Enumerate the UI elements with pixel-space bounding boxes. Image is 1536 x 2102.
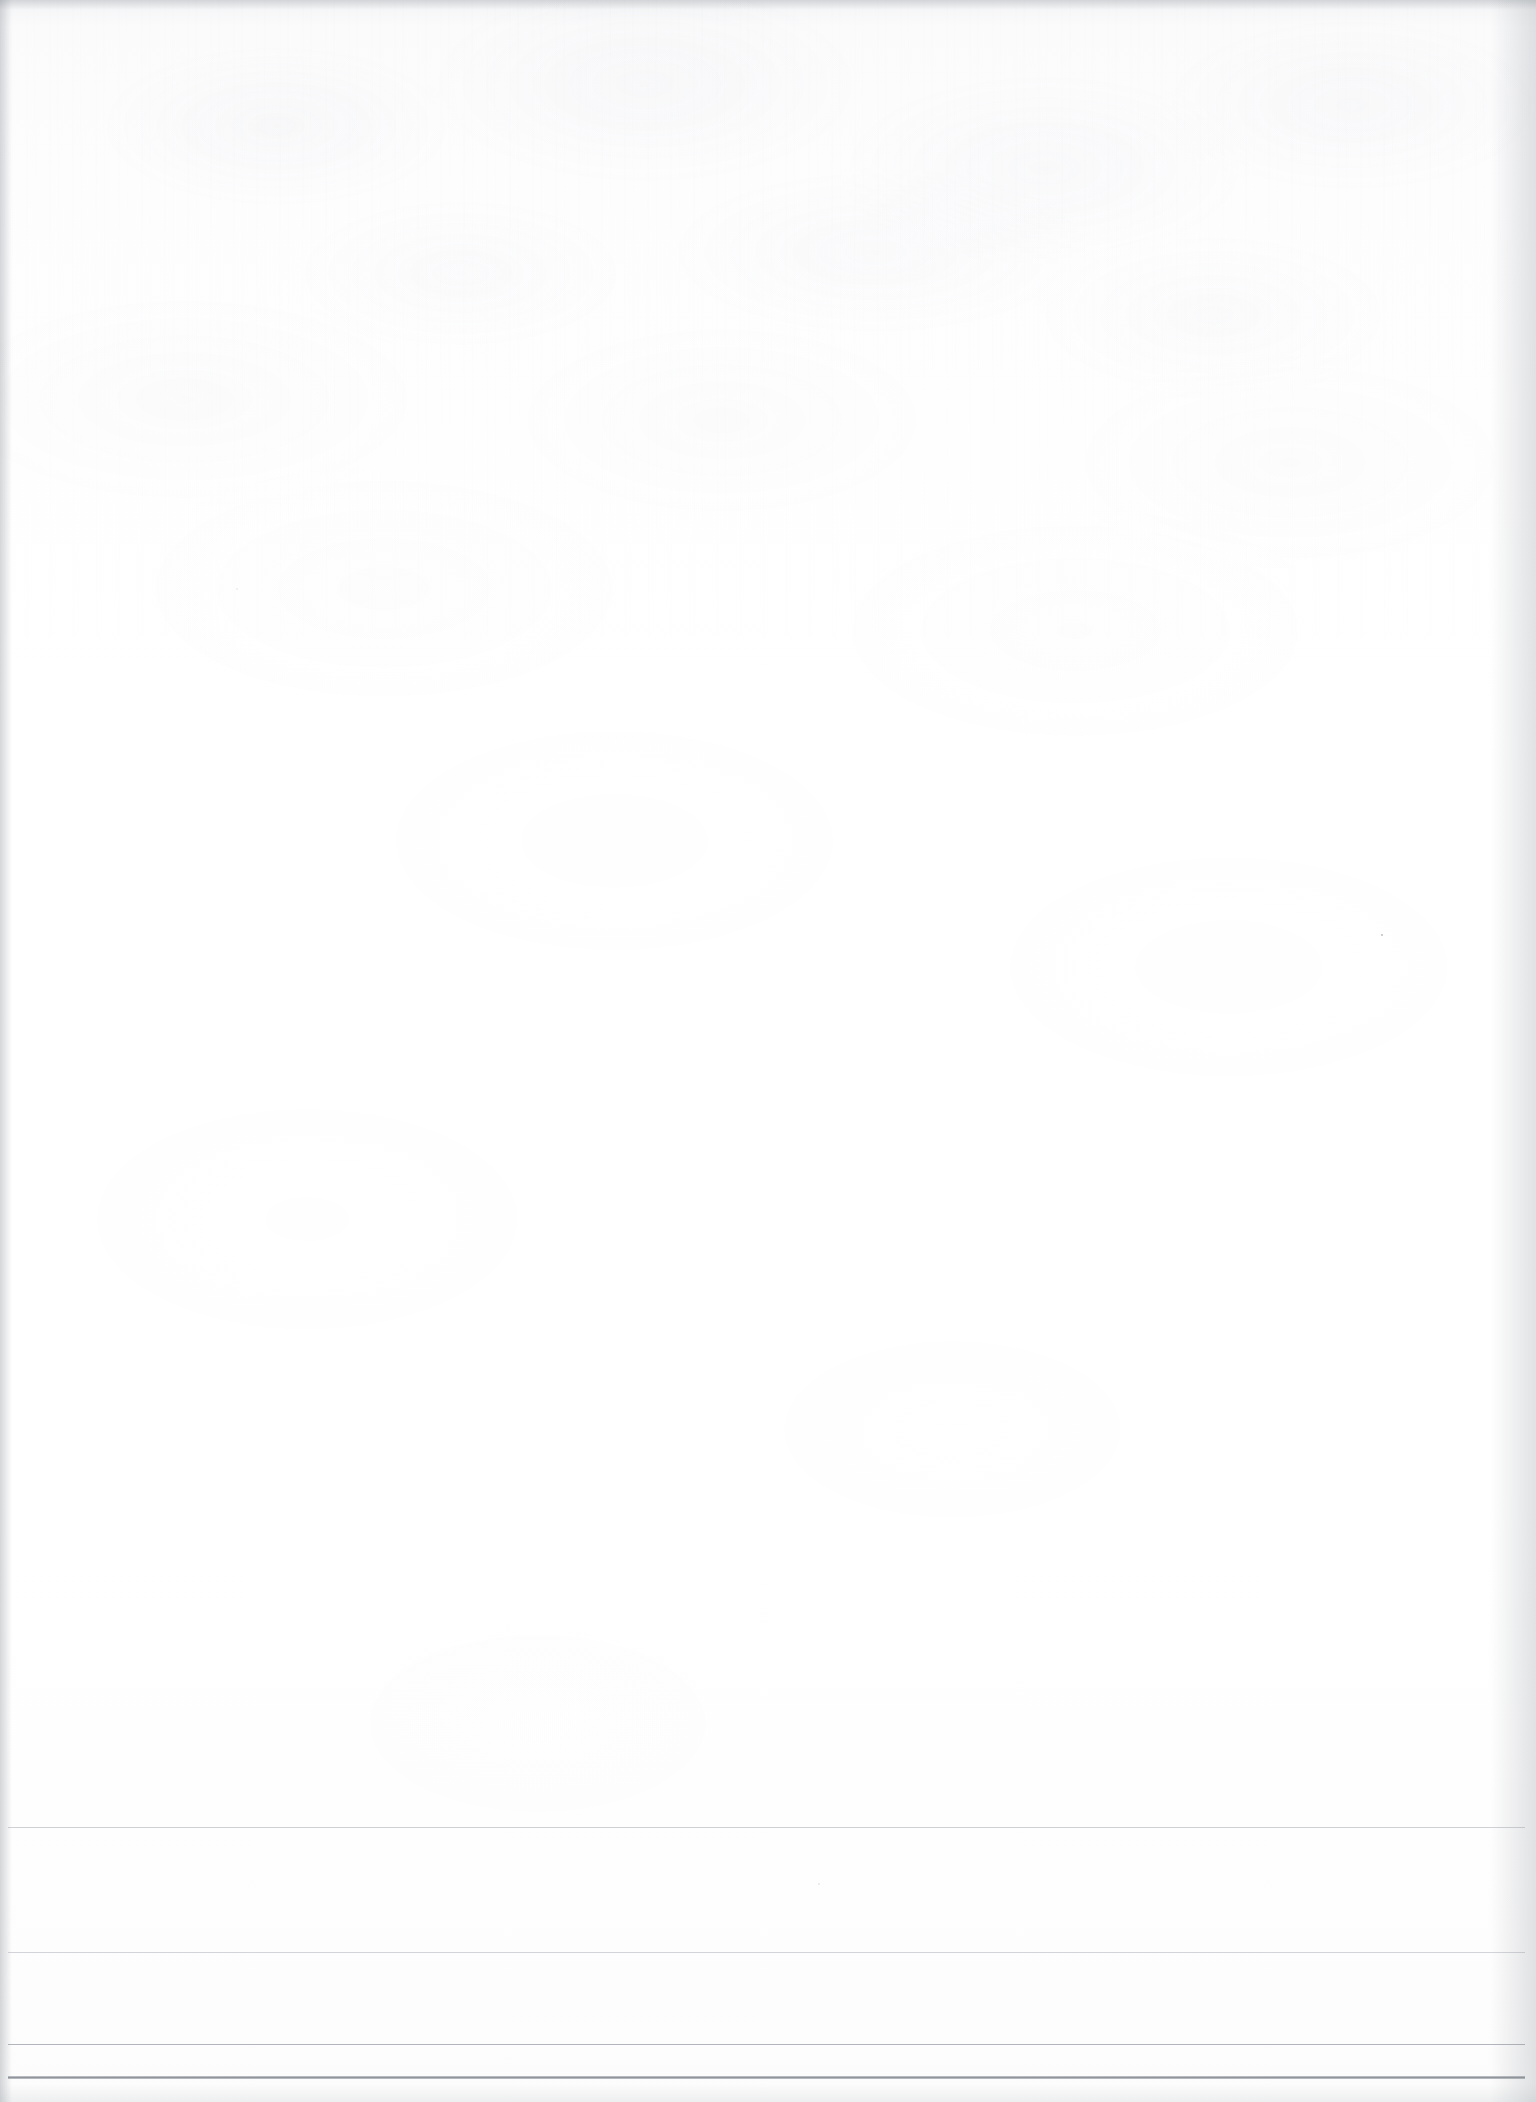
ruled-line-3: [8, 2044, 1525, 2045]
ruled-line-1: [8, 1827, 1525, 1828]
top-edge-shadow: [0, 0, 1536, 10]
ruled-line-2: [8, 1952, 1525, 1953]
scanner-streak-texture: [0, 0, 1536, 2102]
scan-speck-lower-center: [818, 1883, 820, 1885]
scan-speck-mid-left: [236, 588, 238, 590]
scanned-document-page: [0, 0, 1536, 2102]
bottom-edge-shadow: [0, 2084, 1536, 2102]
left-edge-shadow: [0, 0, 12, 2102]
right-edge-shadow: [1490, 0, 1536, 2102]
ruled-line-4: [8, 2076, 1525, 2079]
scan-speck-upper-right: [1381, 934, 1383, 936]
